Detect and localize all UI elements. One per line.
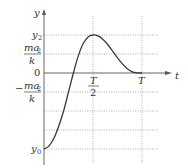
tick-label-neg-ma2-over-k: − ma 2 k bbox=[15, 80, 41, 104]
svg-text:y: y bbox=[30, 143, 37, 154]
svg-text:2: 2 bbox=[38, 34, 42, 42]
tick-label-y0: y 0 bbox=[30, 143, 41, 156]
svg-text:k: k bbox=[29, 55, 35, 66]
tick-label-T: T bbox=[138, 75, 146, 86]
svg-text:−: − bbox=[15, 83, 23, 94]
tick-label-ma2-over-k: ma 2 k bbox=[24, 42, 41, 66]
y-axis-arrow-icon bbox=[42, 9, 46, 15]
svg-text:y: y bbox=[31, 29, 38, 40]
svg-text:2: 2 bbox=[90, 87, 96, 98]
svg-text:0: 0 bbox=[37, 148, 41, 156]
motion-graph: y t y 2 ma 2 k 0 − ma 2 k y 0 T 2 T bbox=[0, 0, 188, 168]
svg-text:T: T bbox=[90, 75, 98, 86]
svg-text:k: k bbox=[29, 93, 35, 104]
t-axis-label: t bbox=[175, 70, 180, 81]
t-axis-arrow-icon bbox=[165, 71, 172, 75]
tick-label-zero: 0 bbox=[34, 67, 40, 78]
tick-label-y2: y 2 bbox=[31, 29, 42, 42]
tick-label-T-half: T 2 bbox=[88, 75, 99, 98]
y-axis-label: y bbox=[33, 7, 40, 18]
